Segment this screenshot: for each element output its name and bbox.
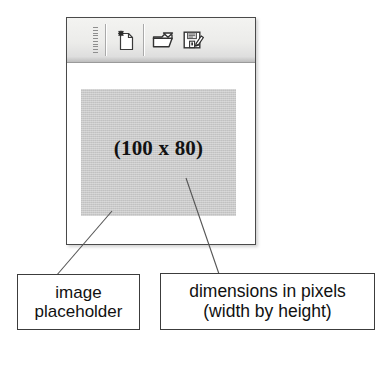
open-folder-icon: [151, 30, 175, 51]
save-floppy-icon: [182, 29, 205, 51]
figure-canvas: (100 x 80) image placeholder dimensions …: [0, 0, 392, 370]
toolbar-separator: [105, 24, 107, 56]
open-file-button[interactable]: [148, 23, 178, 57]
save-file-button[interactable]: [178, 23, 208, 57]
toolbar-separator: [143, 24, 145, 56]
document-canvas: (100 x 80): [67, 64, 255, 244]
new-document-button[interactable]: [110, 23, 140, 57]
callout-line-2: (width by height): [203, 302, 331, 322]
callout-image-placeholder: image placeholder: [17, 274, 140, 330]
drag-grip[interactable]: [91, 26, 100, 54]
callout-line-1: dimensions in pixels: [189, 282, 346, 302]
toolbar: [67, 18, 255, 63]
callout-dimensions-in-pixels: dimensions in pixels (width by height): [160, 273, 375, 330]
callout-line-1: image: [55, 283, 101, 302]
callout-line-2: placeholder: [35, 302, 123, 321]
placeholder-dimensions-label: (100 x 80): [114, 136, 204, 161]
image-placeholder-box[interactable]: (100 x 80): [81, 89, 236, 216]
application-window: (100 x 80): [66, 17, 256, 245]
new-document-icon: [115, 29, 135, 51]
